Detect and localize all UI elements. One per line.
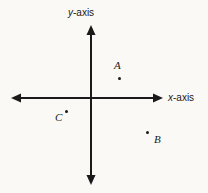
point-a-label: A — [114, 60, 121, 71]
x-axis-line — [11, 94, 163, 103]
y-axis-top-arrowhead — [87, 25, 96, 35]
point-c-dot — [65, 110, 68, 113]
y-axis-line — [87, 25, 96, 185]
point-c-label: C — [55, 112, 62, 123]
y-axis-label-suffix: -axis — [73, 7, 94, 18]
point-b-label: B — [154, 134, 161, 145]
y-axis-label: y-axis — [68, 8, 94, 18]
x-axis-right-arrowhead — [153, 94, 163, 103]
y-axis-bottom-arrowhead — [87, 175, 96, 185]
coordinate-plane-figure: y-axis x-axis A B C — [0, 0, 208, 193]
x-axis-label: x-axis — [168, 93, 194, 103]
point-a-dot — [118, 77, 121, 80]
point-b-dot — [146, 131, 149, 134]
x-axis-label-suffix: -axis — [173, 92, 194, 103]
x-axis-left-arrowhead — [11, 94, 21, 103]
